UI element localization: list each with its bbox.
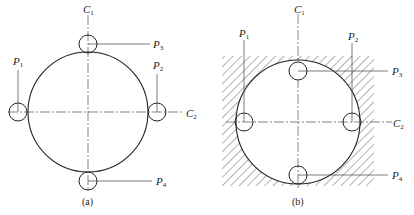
label-c1: C1 bbox=[294, 3, 305, 17]
label-c2: C2 bbox=[186, 107, 197, 121]
label-p2: P2 bbox=[152, 59, 164, 73]
label-p1: P1 bbox=[12, 55, 24, 69]
caption-a: (a) bbox=[82, 196, 93, 208]
label-c1: C1 bbox=[83, 3, 94, 17]
measurement-diagram: C1 C2 P1 P2 P3 P4 (a) C1 C2 P1 P2 P3 P4 … bbox=[0, 0, 414, 215]
label-p1: P1 bbox=[238, 27, 250, 41]
caption-b: (b) bbox=[292, 196, 304, 208]
label-p4: P4 bbox=[155, 175, 167, 189]
panel-a: C1 C2 P1 P2 P3 P4 (a) bbox=[8, 3, 197, 208]
label-c2: C2 bbox=[393, 117, 404, 131]
panel-b: C1 C2 P1 P2 P3 P4 (b) bbox=[222, 3, 404, 208]
label-p2: P2 bbox=[347, 30, 359, 44]
label-p4: P4 bbox=[391, 169, 403, 183]
label-p3: P3 bbox=[391, 65, 403, 79]
label-p3: P3 bbox=[152, 38, 164, 52]
